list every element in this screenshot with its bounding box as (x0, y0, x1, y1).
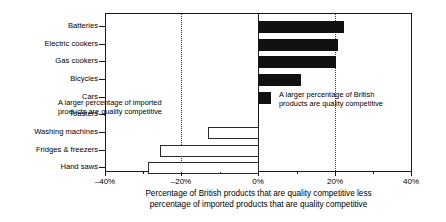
annotation-left-line-2: products are quality competitive (58, 107, 162, 116)
bar-washing-machines (208, 127, 259, 139)
y-axis-label-bicycles: Bicycles (70, 75, 98, 83)
bar-electric-cookers (259, 39, 338, 51)
y-axis-label-electric-cookers: Electric cookers (44, 40, 98, 48)
x-axis-tick-minus40 (105, 172, 106, 176)
chart-figure: Batteries Electric cookers Gas cookers B… (0, 0, 446, 222)
x-axis-label-minus20: –20% (171, 177, 191, 186)
x-axis-minor-tick-minus10 (220, 172, 221, 174)
bar-cars (259, 92, 271, 104)
x-axis-tick-zero (258, 172, 259, 176)
x-axis-title-line-2: percentage of imported products that are… (105, 200, 412, 211)
y-axis-label-hand-saws: Hand saws (60, 163, 98, 171)
x-axis-minor-tick-plus30 (373, 172, 374, 174)
y-axis-label-fridges-freezers: Fridges & freezers (36, 146, 98, 154)
x-axis-tick-plus40 (411, 172, 412, 176)
x-axis-minor-tick-plus10 (297, 172, 298, 174)
annotation-right-line-2: products are quality competitive (279, 99, 383, 108)
x-axis-label-plus20: 20% (327, 177, 343, 186)
bar-fridges-freezers (160, 145, 259, 157)
x-axis-minor-tick-minus30 (143, 172, 144, 174)
x-axis-title-line-1: Percentage of British products that are … (105, 189, 412, 200)
bar-bicycles (259, 74, 301, 86)
y-axis-label-batteries: Batteries (68, 22, 98, 30)
x-axis-title: Percentage of British products that are … (105, 189, 412, 210)
x-axis-label-plus40: 40% (403, 177, 419, 186)
y-axis-label-washing-machines: Washing machines (34, 128, 98, 136)
bar-batteries (259, 21, 344, 33)
x-axis-tick-minus20 (181, 172, 182, 176)
annotation-right-text: A larger percentage of British products … (279, 90, 383, 108)
x-axis-label-minus40: –40% (95, 177, 115, 186)
x-axis-label-zero: 0% (252, 177, 264, 186)
annotation-left-text: A larger percentage of imported products… (58, 98, 162, 116)
annotation-right-line-1: A larger percentage of British (279, 90, 383, 99)
bar-hand-saws (148, 162, 259, 174)
annotation-left-line-1: A larger percentage of imported (58, 98, 162, 107)
bar-gas-cookers (259, 56, 336, 68)
plot-area: A larger percentage of imported products… (105, 13, 412, 172)
y-axis-label-gas-cookers: Gas cookers (55, 57, 98, 65)
x-axis-tick-plus20 (335, 172, 336, 176)
